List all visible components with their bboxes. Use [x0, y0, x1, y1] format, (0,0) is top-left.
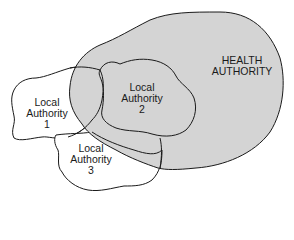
local-authority-2-label-line3: 2 — [121, 104, 162, 115]
local-authority-1-label: Local Authority 1 — [26, 97, 67, 130]
local-authority-3-label-line3: 3 — [70, 165, 111, 176]
local-authority-3-label: Local Authority 3 — [70, 143, 111, 176]
local-authority-2-label: Local Authority 2 — [121, 82, 162, 115]
health-authority-label: HEALTH AUTHORITY — [212, 55, 273, 77]
health-authority-label-line2: AUTHORITY — [212, 66, 273, 77]
local-authority-1-label-line3: 1 — [26, 119, 67, 130]
